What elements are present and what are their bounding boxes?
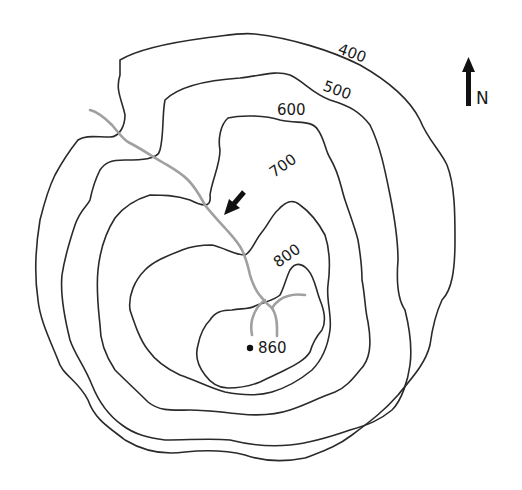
contour-label-400: 400 <box>336 40 369 67</box>
stream-tributary-mid <box>272 308 277 336</box>
contour-label-600: 600 <box>277 101 306 119</box>
stream-tributary-left <box>251 300 265 335</box>
contour-400 <box>36 33 455 460</box>
summit-elevation-label: 860 <box>258 339 287 357</box>
direction-arrow-icon <box>224 192 244 215</box>
contour-700 <box>130 201 331 394</box>
contour-label-700: 700 <box>266 150 300 181</box>
summit-point-icon <box>247 345 253 351</box>
contour-800 <box>197 264 325 388</box>
contour-label-800: 800 <box>270 240 304 271</box>
north-label: N <box>476 88 489 108</box>
north-arrow-icon <box>462 57 475 106</box>
stream <box>90 110 272 308</box>
topographic-map: N 860 400 500 600 700 800 <box>0 0 522 490</box>
contour-label-500: 500 <box>321 77 354 104</box>
